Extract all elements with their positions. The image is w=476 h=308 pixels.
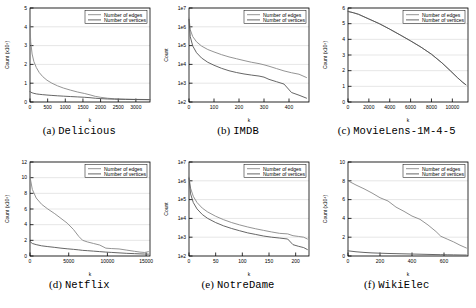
plot-wrapper: 1e21e31e41e51e61e70100200300400kCountNum… xyxy=(159,0,317,126)
y-axis-tick-label: 6 xyxy=(342,196,345,202)
plot-wrapper: 1e21e31e41e51e61e7050100150200kCountNumb… xyxy=(159,154,317,280)
y-axis-tick-label: 1e3 xyxy=(178,80,187,86)
y-axis-tick-label: 1e5 xyxy=(178,196,187,202)
x-axis-tick-label: 200 xyxy=(291,258,300,264)
x-axis-tick-label: 150 xyxy=(265,258,274,264)
x-axis-tick-label: 15000 xyxy=(140,258,154,264)
y-axis-tick-label: 1e4 xyxy=(178,215,187,221)
caption-dataset-name: NotreDame xyxy=(217,279,275,291)
caption-dataset-name: WikiElec xyxy=(378,279,429,291)
series-line-edges xyxy=(348,181,466,248)
y-axis-tick-label: 1e7 xyxy=(178,5,187,11)
y-axis-tick-label: 1e7 xyxy=(178,159,187,165)
y-axis-tick-label: 3 xyxy=(25,42,28,48)
y-axis-tick-label: 1e2 xyxy=(178,253,187,259)
series-line-edges xyxy=(30,177,148,253)
figure-grid: 012345050010001500200025003000kCount (x1… xyxy=(0,0,476,308)
x-axis-tick-label: 0 xyxy=(188,104,191,110)
y-axis-label: Count xyxy=(163,202,169,216)
x-axis-tick-label: 3000 xyxy=(131,104,142,110)
y-axis-tick-label: 1e3 xyxy=(178,234,187,240)
panel-movielens-1m-4-5: 01234560200040006000800010000kCount (x10… xyxy=(317,0,476,154)
x-axis-tick-label: 200 xyxy=(375,258,384,264)
y-axis-tick-label: 0 xyxy=(25,99,28,105)
y-axis-tick-label: 1 xyxy=(25,80,28,86)
x-axis-label: k xyxy=(248,117,251,123)
plot-wrapper: 012345050010001500200025003000kCount (x1… xyxy=(0,0,158,126)
x-axis-label: k xyxy=(89,271,92,277)
x-axis-tick-label: 200 xyxy=(235,104,244,110)
series-line-vertices xyxy=(30,242,148,255)
caption-dataset-name: Netflix xyxy=(65,279,110,291)
x-axis-tick-label: 1500 xyxy=(78,104,89,110)
y-axis-tick-label: 2 xyxy=(342,234,345,240)
y-axis-tick-label: 1e2 xyxy=(178,99,187,105)
chart-plot-imdb: 1e21e31e41e51e61e70100200300400kCountNum… xyxy=(159,0,317,126)
x-axis-tick-label: 100 xyxy=(238,258,247,264)
caption-dataset-name: IMDB xyxy=(233,125,259,137)
series-line-edges xyxy=(30,25,150,100)
y-axis-tick-label: 4 xyxy=(342,36,345,42)
x-axis-tick-label: 8000 xyxy=(426,104,437,110)
y-axis-tick-label: 8 xyxy=(342,178,345,184)
y-axis-tick-label: 4 xyxy=(342,215,345,221)
x-axis-tick-label: 400 xyxy=(407,258,416,264)
series-line-edges xyxy=(189,177,307,239)
panel-imdb: 1e21e31e41e51e61e70100200300400kCountNum… xyxy=(159,0,318,154)
x-axis-label: k xyxy=(406,117,409,123)
y-axis-tick-label: 6 xyxy=(25,206,28,212)
chart-plot-notredame: 1e21e31e41e51e61e7050100150200kCountNumb… xyxy=(159,154,317,280)
x-axis-tick-label: 0 xyxy=(188,258,191,264)
x-axis-tick-label: 100 xyxy=(210,104,219,110)
y-axis-tick-label: 0 xyxy=(25,253,28,259)
caption-dataset-name: Delicious xyxy=(58,125,116,137)
chart-plot-wikielec: 02468100200400600kCount (x10⁴)Number of … xyxy=(318,154,476,280)
y-axis-tick-label: 5 xyxy=(342,20,345,26)
caption-dataset-name: MovieLens-1M-4-5 xyxy=(353,125,455,137)
y-axis-tick-label: 4 xyxy=(25,24,28,30)
x-axis-tick-label: 4000 xyxy=(384,104,395,110)
series-line-vertices xyxy=(348,251,466,255)
legend-label-vertices: Number of vertices xyxy=(263,171,305,177)
y-axis-tick-label: 1e4 xyxy=(178,61,187,67)
panel-delicious: 012345050010001500200025003000kCount (x1… xyxy=(0,0,159,154)
y-axis-tick-label: 1e5 xyxy=(178,42,187,48)
x-axis-tick-label: 0 xyxy=(346,258,349,264)
x-axis-tick-label: 1000 xyxy=(60,104,71,110)
y-axis-tick-label: 2 xyxy=(342,67,345,73)
x-axis-label: k xyxy=(89,117,92,123)
y-axis-tick-label: 8 xyxy=(25,190,28,196)
x-axis-tick-label: 400 xyxy=(285,104,294,110)
series-line-vertices xyxy=(189,19,307,98)
y-axis-tick-label: 0 xyxy=(342,253,345,259)
x-axis-tick-label: 0 xyxy=(346,104,349,110)
plot-wrapper: 02468100200400600kCount (x10⁴)Number of … xyxy=(318,154,476,280)
y-axis-tick-label: 12 xyxy=(22,159,28,165)
y-axis-tick-label: 2 xyxy=(25,61,28,67)
y-axis-tick-label: 4 xyxy=(25,221,28,227)
chart-plot-delicious: 012345050010001500200025003000kCount (x1… xyxy=(0,0,158,126)
y-axis-tick-label: 6 xyxy=(342,5,345,11)
chart-plot-netflix: 024681012050001000015000kCount (x10⁵)Num… xyxy=(0,154,158,280)
y-axis-tick-label: 1e6 xyxy=(178,178,187,184)
x-axis-tick-label: 5000 xyxy=(63,258,74,264)
y-axis-tick-label: 5 xyxy=(25,5,28,11)
y-axis-tick-label: 10 xyxy=(339,159,345,165)
x-axis-tick-label: 10000 xyxy=(101,258,115,264)
y-axis-label: Count (x10⁵) xyxy=(4,41,10,70)
panel-wikielec: 02468100200400600kCount (x10⁴)Number of … xyxy=(317,154,476,308)
x-axis-label: k xyxy=(406,271,409,277)
x-axis-tick-label: 2000 xyxy=(363,104,374,110)
plot-wrapper: 024681012050001000015000kCount (x10⁵)Num… xyxy=(0,154,158,280)
series-line-vertices xyxy=(189,178,307,250)
plot-wrapper: 01234560200040006000800010000kCount (x10… xyxy=(318,0,476,126)
x-axis-tick-label: 2000 xyxy=(95,104,106,110)
y-axis-label: Count (x10⁵) xyxy=(322,41,328,70)
series-line-vertices xyxy=(30,91,150,99)
x-axis-tick-label: 600 xyxy=(439,258,448,264)
legend-label-vertices: Number of vertices xyxy=(104,17,146,23)
x-axis-tick-label: 10000 xyxy=(445,104,459,110)
x-axis-tick-label: 0 xyxy=(29,258,32,264)
y-axis-tick-label: 0 xyxy=(342,99,345,105)
x-axis-tick-label: 500 xyxy=(44,104,53,110)
